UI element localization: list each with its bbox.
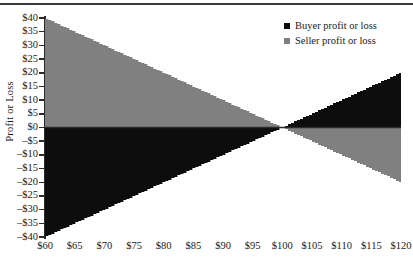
y-axis-tick-mark xyxy=(39,154,45,156)
y-axis-tick-mark xyxy=(39,17,45,19)
y-axis-tick-label: $40 xyxy=(4,13,38,23)
y-axis-tick-label: –$5 xyxy=(4,136,38,146)
legend-item: Seller profit or loss xyxy=(284,34,377,48)
y-axis-tick-mark xyxy=(39,236,45,238)
y-axis-tick-label: $25 xyxy=(4,54,38,64)
y-axis-tick-label: –$20 xyxy=(4,177,38,187)
y-axis-tick-mark xyxy=(39,168,45,170)
y-axis-tick-label: –$10 xyxy=(4,149,38,159)
y-axis-tick-mark xyxy=(39,140,45,142)
plot-area xyxy=(45,18,401,237)
y-axis-tick-mark xyxy=(39,58,45,60)
y-axis-tick-label: $10 xyxy=(4,95,38,105)
y-axis-tick-mark xyxy=(39,195,45,197)
y-axis-tick-mark xyxy=(39,86,45,88)
y-axis-tick-mark xyxy=(39,31,45,33)
legend-item-label: Buyer profit or loss xyxy=(295,19,377,33)
y-axis-tick-mark xyxy=(39,127,45,129)
y-axis-tick-label: –$30 xyxy=(4,204,38,214)
y-axis-tick-label: $0 xyxy=(4,122,38,132)
payoff-series-svg xyxy=(45,18,401,237)
top-horizontal-rule xyxy=(0,3,413,5)
gray-square-icon xyxy=(284,38,290,44)
y-axis-tick-mark xyxy=(39,182,45,184)
y-axis-tick-label: $30 xyxy=(4,40,38,50)
legend-item: Buyer profit or loss xyxy=(284,19,377,33)
y-axis-tick-label: $20 xyxy=(4,67,38,77)
y-axis-tick-mark xyxy=(39,45,45,47)
y-axis-tick-label: $5 xyxy=(4,108,38,118)
y-axis-tick-mark xyxy=(39,209,45,211)
x-axis-tick-label: $120 xyxy=(379,239,413,253)
y-axis-tick-mark xyxy=(39,223,45,225)
y-axis-tick-label: –$25 xyxy=(4,190,38,200)
legend-item-label: Seller profit or loss xyxy=(295,34,376,48)
y-axis-tick-label: $35 xyxy=(4,26,38,36)
y-axis-tick-label: $15 xyxy=(4,81,38,91)
chart-legend: Buyer profit or lossSeller profit or los… xyxy=(284,19,377,49)
x-axis-tick-labels: $60$65$70$75$80$85$90$95$100$105$110$115… xyxy=(0,239,413,257)
payoff-chart-figure: Profit or Loss $40$35$30$25$20$15$10$5$0… xyxy=(0,0,413,257)
y-axis-tick-mark xyxy=(39,99,45,101)
y-axis-tick-labels: $40$35$30$25$20$15$10$5$0–$5–$10–$15–$20… xyxy=(0,0,38,257)
black-square-icon xyxy=(284,23,290,29)
y-axis-tick-mark xyxy=(39,72,45,74)
y-axis-tick-label: –$35 xyxy=(4,218,38,228)
y-axis-tick-mark xyxy=(39,113,45,115)
y-axis-tick-label: –$15 xyxy=(4,163,38,173)
